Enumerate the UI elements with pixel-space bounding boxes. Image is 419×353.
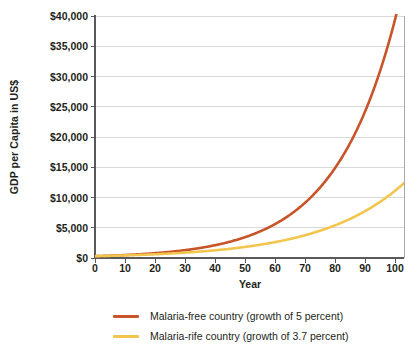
data-series [95, 0, 404, 256]
y-axis-tick-labels: $0$5,000$10,000$15,000$20,000$25,000$30,… [22, 0, 88, 280]
legend-label: Malaria-free country (growth of 5 percen… [150, 310, 343, 322]
y-axis-tick-label: $15,000 [22, 161, 88, 173]
gridlines [95, 16, 404, 258]
legend-label: Malaria-rife country (growth of 3.7 perc… [150, 330, 348, 342]
y-axis-tick-label: $25,000 [22, 101, 88, 113]
legend-swatch-malaria-rife [113, 335, 139, 338]
y-axis-tick-label: $5,000 [22, 222, 88, 234]
chart-figure: GDP per Capita in US$ $0$5,000$10,000$15… [0, 0, 419, 353]
chart-legend: Malaria-free country (growth of 5 percen… [0, 306, 419, 346]
y-axis-title: GDP per Capita in US$ [8, 80, 20, 195]
x-axis-tick-labels: 0102030405060708090100 [0, 0, 419, 30]
legend-item: Malaria-free country (growth of 5 percen… [0, 306, 419, 326]
x-axis-title: Year [95, 278, 405, 290]
y-axis-title-container: GDP per Capita in US$ [4, 16, 24, 258]
x-axis-tick-label: 100 [375, 262, 415, 274]
y-axis-tick-label: $10,000 [22, 192, 88, 204]
y-axis-tick-label: $35,000 [22, 40, 88, 52]
legend-item: Malaria-rife country (growth of 3.7 perc… [0, 326, 419, 346]
y-axis-tick-label: $20,000 [22, 131, 88, 143]
legend-swatch-malaria-free [113, 315, 139, 318]
y-axis-tick-label: $30,000 [22, 71, 88, 83]
